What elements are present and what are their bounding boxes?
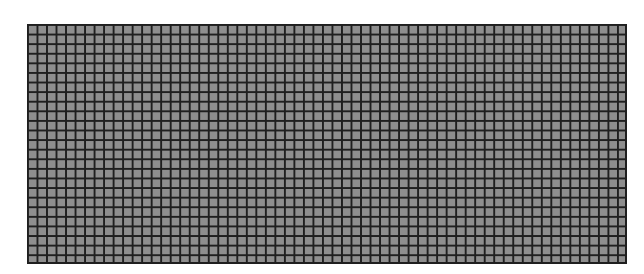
gray-cell-grid — [27, 24, 627, 264]
